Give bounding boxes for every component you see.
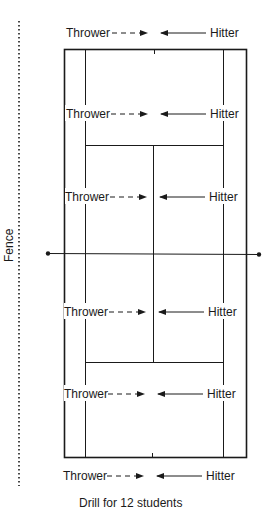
thrower-label: Thrower — [66, 107, 110, 121]
drill-row: Thrower Hitter — [65, 188, 238, 204]
drill-row: Thrower Hitter — [63, 469, 235, 483]
hitter-label: Hitter — [208, 305, 237, 319]
net-post-left — [46, 251, 50, 255]
tennis-drill-diagram: Fence Thrower Hitter Thrower Hitter Thro… — [0, 0, 274, 529]
hitter-label: Hitter — [207, 387, 236, 401]
drill-row: Thrower Hitter — [64, 385, 236, 401]
drill-row: Thrower Hitter — [64, 303, 237, 319]
diagram-caption: Drill for 12 students — [79, 496, 182, 510]
thrower-label: Thrower — [63, 469, 107, 483]
drill-row: Thrower Hitter — [65, 105, 239, 121]
net-line — [48, 254, 259, 255]
thrower-label: Thrower — [64, 305, 108, 319]
thrower-label: Thrower — [64, 387, 108, 401]
net-post-right — [257, 252, 261, 256]
drill-row: Thrower Hitter — [66, 26, 239, 40]
thrower-label: Thrower — [65, 190, 109, 204]
fence-label: Fence — [2, 228, 16, 262]
hitter-label: Hitter — [206, 469, 235, 483]
hitter-label: Hitter — [209, 190, 238, 204]
hitter-label: Hitter — [210, 26, 239, 40]
hitter-label: Hitter — [210, 107, 239, 121]
thrower-label: Thrower — [66, 26, 110, 40]
